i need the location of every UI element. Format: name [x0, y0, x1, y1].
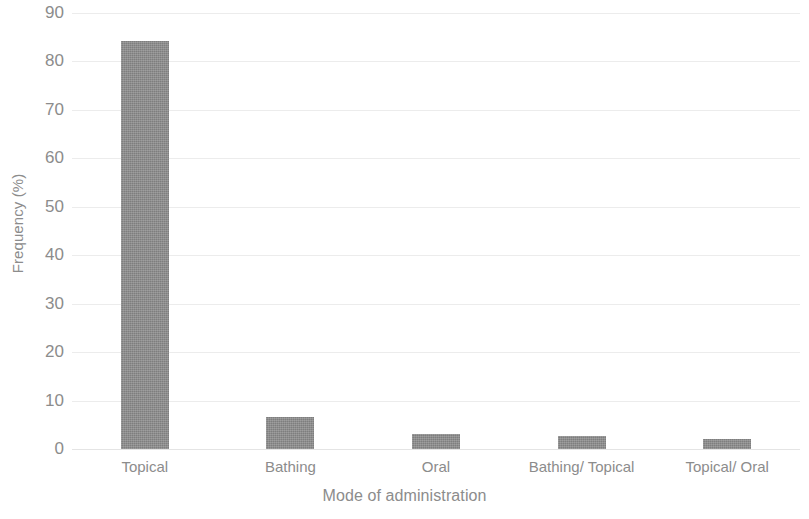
- y-axis-tick-label: 30: [20, 295, 64, 312]
- y-axis-tick-label: 40: [20, 246, 64, 263]
- bars-group: [72, 13, 800, 449]
- bar: [558, 436, 606, 449]
- y-axis-tick-label: 20: [20, 343, 64, 360]
- x-axis-title: Mode of administration: [0, 487, 809, 505]
- y-axis-tick-label: 80: [20, 52, 64, 69]
- x-axis-tick-labels: TopicalBathingOralBathing/ TopicalTopica…: [72, 458, 800, 482]
- bar: [703, 439, 751, 449]
- bar: [266, 417, 314, 449]
- y-axis-tick-label: 90: [20, 4, 64, 21]
- x-axis-tick-label: Oral: [363, 458, 509, 476]
- bar: [121, 41, 169, 449]
- bar-chart: Frequency (%) 0102030405060708090 Topica…: [0, 0, 809, 519]
- y-axis-tick-label: 60: [20, 149, 64, 166]
- y-axis-tick-label: 70: [20, 101, 64, 118]
- bar: [412, 434, 460, 449]
- x-axis-tick-label: Topical: [72, 458, 218, 476]
- plot-area: [72, 13, 800, 449]
- x-axis-tick-label: Bathing/ Topical: [509, 458, 655, 476]
- y-axis-tick-label: 10: [20, 392, 64, 409]
- x-axis-tick-label: Bathing: [218, 458, 364, 476]
- y-axis-tick-label: 0: [20, 440, 64, 457]
- y-axis-tick-label: 50: [20, 198, 64, 215]
- x-axis-tick-label: Topical/ Oral: [654, 458, 800, 476]
- gridline: [72, 449, 800, 450]
- y-axis-tick-labels: 0102030405060708090: [20, 0, 64, 519]
